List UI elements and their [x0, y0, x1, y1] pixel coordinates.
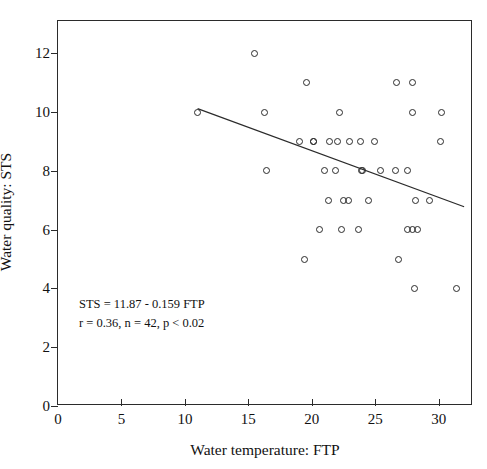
x-tick-label-30: 30: [431, 412, 446, 427]
x-tick-label-20: 20: [304, 412, 319, 427]
y-tick-12: [51, 53, 58, 54]
x-tick-label-0: 0: [54, 412, 62, 427]
x-axis-title: Water temperature: FTP: [190, 441, 339, 459]
y-tick-label-4: 4: [43, 281, 51, 296]
data-point: [301, 256, 308, 263]
data-point: [438, 109, 445, 116]
x-tick-label-25: 25: [368, 412, 383, 427]
y-tick-label-6: 6: [43, 222, 51, 237]
data-point: [409, 109, 416, 116]
data-point: [251, 50, 258, 57]
scatter-plot-figure: Water quality: STS Water temperature: FT…: [0, 0, 487, 469]
y-tick-label-12: 12: [35, 46, 50, 61]
regression-stats-text: r = 0.36, n = 42, p < 0.02: [79, 314, 205, 333]
data-point: [404, 167, 411, 174]
regression-equation-text: STS = 11.87 - 0.159 FTP: [79, 295, 205, 314]
data-point: [194, 109, 201, 116]
data-point: [263, 167, 270, 174]
y-tick-0: [51, 406, 58, 407]
y-tick-4: [51, 288, 58, 289]
y-axis-title: Water quality: STS: [0, 153, 15, 271]
data-point: [395, 256, 402, 263]
y-tick-10: [51, 112, 58, 113]
data-point: [310, 138, 317, 145]
y-tick-label-8: 8: [43, 163, 51, 178]
data-point: [325, 197, 332, 204]
data-point: [326, 138, 333, 145]
data-point: [338, 226, 345, 233]
data-point: [414, 226, 421, 233]
y-tick-8: [51, 171, 58, 172]
data-point: [296, 138, 303, 145]
data-point: [453, 285, 460, 292]
data-point: [409, 79, 416, 86]
y-tick-label-0: 0: [43, 399, 51, 414]
stats-annotation: STS = 11.87 - 0.159 FTP r = 0.36, n = 42…: [79, 295, 205, 334]
y-tick-label-10: 10: [35, 105, 50, 120]
data-point: [357, 138, 364, 145]
x-tick-label-15: 15: [241, 412, 256, 427]
plot-area: 024681012 051015202530 STS = 11.87 - 0.1…: [57, 20, 472, 405]
data-point: [437, 138, 444, 145]
data-point: [345, 197, 352, 204]
x-tick-label-10: 10: [177, 412, 192, 427]
y-tick-label-2: 2: [43, 340, 51, 355]
y-tick-6: [51, 230, 58, 231]
y-tick-2: [51, 347, 58, 348]
data-point: [336, 109, 343, 116]
x-tick-label-5: 5: [118, 412, 126, 427]
data-point: [411, 285, 418, 292]
data-point: [371, 138, 378, 145]
data-point: [334, 138, 341, 145]
data-point: [261, 109, 268, 116]
